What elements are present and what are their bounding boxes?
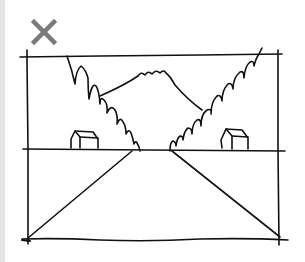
- left-trees: [67, 56, 140, 151]
- sketch-image: Hand-drawn perspective sketch: a road co…: [0, 0, 305, 262]
- right-trees: [170, 48, 262, 151]
- left-house: [71, 131, 98, 148]
- right-house: [221, 129, 248, 149]
- mountain: [100, 71, 202, 110]
- road: [28, 151, 280, 238]
